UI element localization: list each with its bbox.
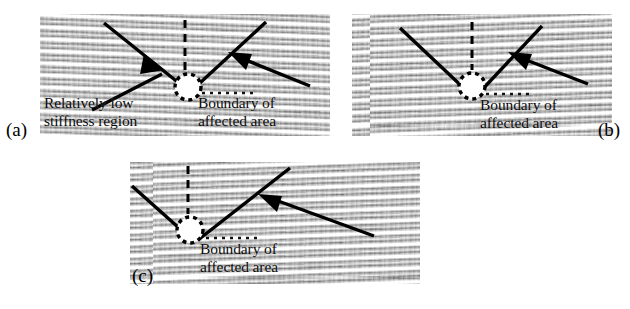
panel-a: Relatively low stiffness region Boundary… xyxy=(40,14,330,136)
arrowhead-right-c xyxy=(258,194,282,212)
pointer-line-right-b xyxy=(478,26,542,94)
panel-label-b: (b) xyxy=(598,120,620,140)
arrowhead-right-a xyxy=(228,52,252,70)
annotation-low-stiffness-a-line2: stiffness region xyxy=(44,112,137,130)
annotation-low-stiffness-a-line1: Relatively low xyxy=(44,94,133,112)
leader-line-right-c xyxy=(270,198,374,236)
annotation-boundary-c-line1: Boundary of xyxy=(200,240,277,258)
panel-c: Boundary of affected area xyxy=(130,162,420,284)
figure-container: Relatively low stiffness region Boundary… xyxy=(0,0,630,309)
panel-b: Boundary of affected area xyxy=(352,14,612,136)
annotation-boundary-a-line1: Boundary of xyxy=(198,94,275,112)
annotation-boundary-b-line1: Boundary of xyxy=(480,96,557,114)
panel-label-c: (c) xyxy=(132,266,153,286)
annotation-boundary-c-line2: affected area xyxy=(200,258,278,276)
annotation-boundary-b-line2: affected area xyxy=(480,114,558,132)
annotation-boundary-a-line2: affected area xyxy=(198,112,276,130)
panel-label-a: (a) xyxy=(6,120,27,140)
arrowhead-right-b xyxy=(508,52,532,70)
